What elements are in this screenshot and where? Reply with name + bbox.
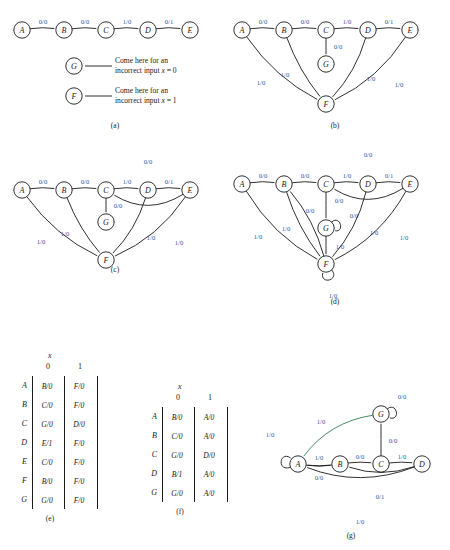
- note-line-1: Come here for an: [115, 86, 168, 95]
- state-label: C: [323, 180, 329, 189]
- transition-label: 0/1: [376, 493, 384, 500]
- state-label: E: [187, 26, 193, 35]
- transition-arrow: [30, 188, 54, 189]
- state-node-B: B: [276, 22, 292, 38]
- state-node-G: G: [318, 56, 334, 72]
- state-node-D: D: [360, 176, 376, 192]
- state-label: B: [338, 460, 343, 469]
- table-cell: A/0: [194, 432, 224, 441]
- transition-label: 1/0: [61, 230, 70, 237]
- note-text: incorrect input: [115, 96, 161, 105]
- transition-arrow: [72, 28, 96, 29]
- state-label: F: [71, 92, 77, 101]
- self-loop-arrow: [281, 456, 290, 468]
- transition-arrow: [292, 28, 316, 29]
- transition-arrow: [376, 182, 400, 183]
- transition-label: 0/0: [81, 18, 90, 25]
- note-line-2: incorrect input x = 1: [115, 96, 177, 105]
- transition-label: 1/0: [254, 233, 263, 240]
- transition-label: 0/0: [356, 453, 365, 460]
- transition-arrow: [334, 28, 358, 29]
- transition-arrow: [307, 467, 414, 478]
- transition-label: 0/0: [144, 158, 153, 165]
- transition-arrow: [30, 28, 54, 29]
- table-cell: F/0: [64, 477, 94, 486]
- state-node-B: B: [56, 22, 72, 38]
- state-node-C: C: [318, 176, 334, 192]
- state-label: A: [295, 460, 301, 469]
- table-cell: G/0: [162, 489, 192, 498]
- row-state-label: B: [15, 400, 27, 409]
- row-state-label: A: [145, 412, 157, 421]
- row-state-label: B: [145, 431, 157, 440]
- transition-label: 1/0: [400, 234, 409, 241]
- table-cell: A/0: [194, 489, 224, 498]
- table-caption: (e): [30, 514, 70, 523]
- table-caption: (f): [160, 507, 200, 516]
- state-node-C: C: [318, 22, 334, 38]
- row-state-label: D: [15, 438, 27, 447]
- transition-label: 1/0: [395, 81, 404, 88]
- state-label: C: [103, 26, 109, 35]
- transition-label: 1/0: [282, 225, 291, 232]
- transition-arrow: [376, 28, 400, 29]
- transition-label: 0/0: [301, 18, 310, 25]
- transition-label: 1/0: [315, 454, 324, 461]
- table-cell: F/0: [64, 496, 94, 505]
- table-cell: B/0: [162, 413, 192, 422]
- state-label: F: [323, 100, 329, 109]
- transition-label: 0/0: [306, 207, 315, 214]
- transition-arrow: [250, 182, 274, 183]
- table-cell: G/0: [32, 420, 62, 429]
- transition-arrow: [72, 188, 96, 189]
- state-label: C: [103, 186, 109, 195]
- state-label: E: [187, 186, 193, 195]
- table-cell: B/1: [162, 470, 192, 479]
- transition-arrow: [287, 38, 320, 97]
- state-label: D: [144, 26, 151, 35]
- state-label: G: [378, 410, 384, 419]
- state-node-B: B: [276, 176, 292, 192]
- transition-label: 1/0: [281, 71, 290, 78]
- state-label: A: [239, 26, 245, 35]
- state-node-A: A: [290, 456, 306, 472]
- transition-label: 0/0: [315, 474, 324, 481]
- state-label: A: [19, 186, 25, 195]
- state-node-A: A: [14, 182, 30, 198]
- state-label: B: [282, 180, 287, 189]
- state-label: D: [364, 26, 371, 35]
- panel-g-state-diagram: ABCDG1/00/00/01/00/00/01/01/00/11/0(g): [256, 378, 446, 544]
- transition-label: 0/0: [389, 437, 398, 444]
- transition-arrow: [156, 28, 180, 29]
- transition-label: 0/0: [335, 197, 344, 204]
- transition-label: 0/0: [259, 18, 268, 25]
- state-label: D: [418, 460, 425, 469]
- column-header: 1: [73, 362, 87, 371]
- transition-arrow: [27, 197, 97, 256]
- panel-a-state-diagram: ABCDE0/00/01/00/1GFCome here for anincor…: [8, 8, 223, 133]
- column-header: 0: [41, 362, 55, 371]
- figure-root: ABCDE0/00/01/00/1GFCome here for anincor…: [0, 0, 450, 550]
- state-node-E: E: [182, 22, 198, 38]
- table-cell: E/1: [32, 439, 62, 448]
- transition-arrow: [114, 28, 138, 29]
- note-value: = 1: [165, 96, 177, 105]
- transition-arrow: [335, 37, 406, 100]
- transition-label: 0/0: [81, 178, 90, 185]
- table-cell: D/0: [64, 420, 94, 429]
- transition-arrow: [286, 192, 320, 256]
- transition-arrow: [67, 198, 100, 253]
- state-node-C: C: [98, 22, 114, 38]
- transition-label: 0/1: [165, 18, 173, 25]
- transition-label: 1/0: [266, 431, 275, 438]
- state-node-E: E: [402, 22, 418, 38]
- transition-label: 1/0: [343, 172, 352, 179]
- row-state-label: A: [15, 381, 27, 390]
- transition-arrow: [156, 188, 180, 189]
- transition-label: 1/0: [123, 178, 132, 185]
- panel-caption-g: (g): [347, 531, 356, 540]
- state-label: G: [103, 218, 109, 227]
- column-header: 1: [203, 393, 217, 402]
- transition-label: 1/0: [37, 238, 46, 245]
- note-line-2: incorrect input x = 0: [115, 66, 177, 75]
